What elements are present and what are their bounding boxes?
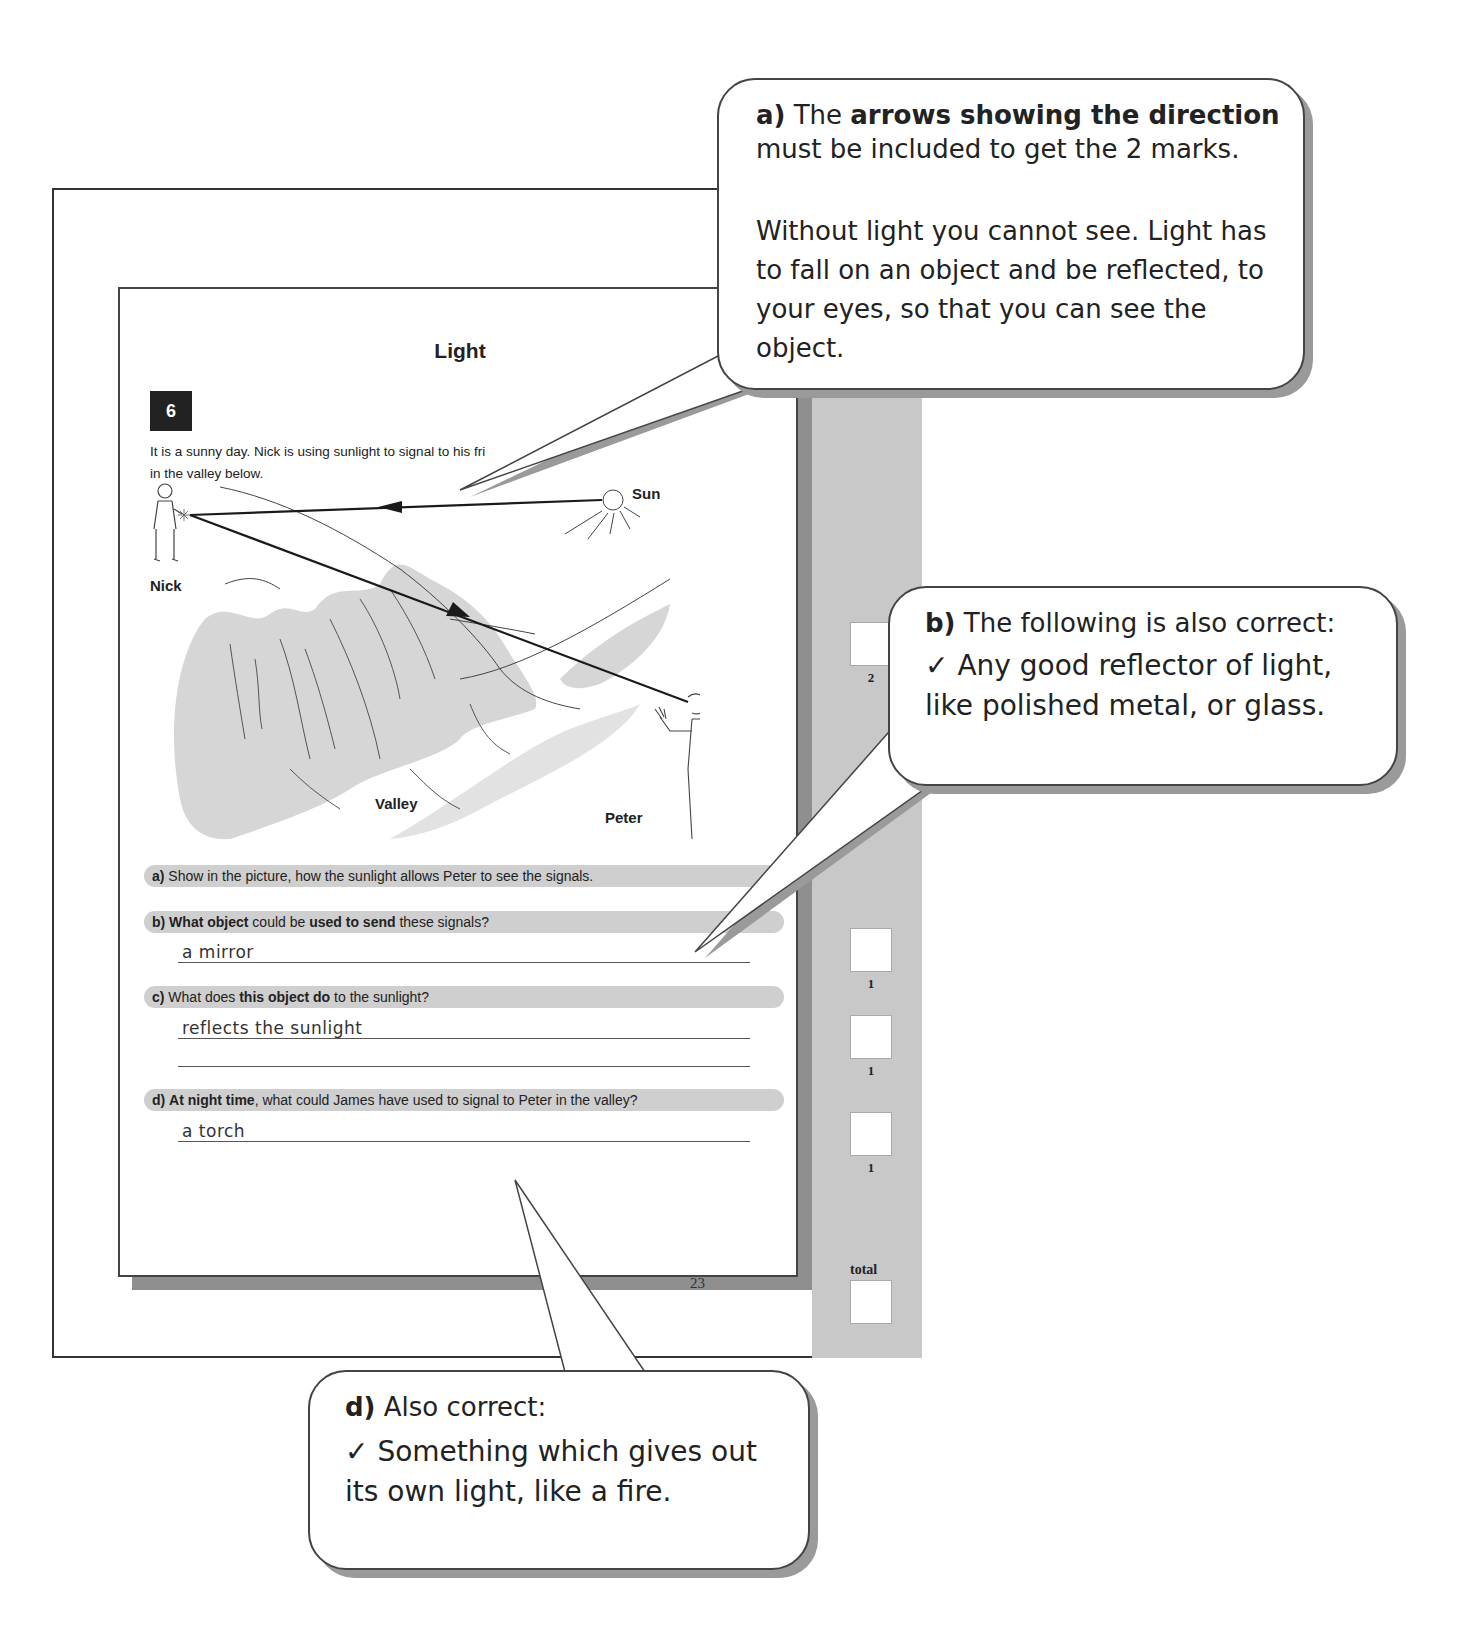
check-icon: ✓ (345, 1435, 368, 1468)
callout-a: a) The arrows showing the direction must… (717, 78, 1305, 390)
callout-d-heading: d) Also correct: (345, 1390, 805, 1424)
callout-b-body: ✓ Any good reflector of light, like poli… (925, 646, 1385, 726)
callout-a-paragraph-1: a) The arrows showing the direction must… (756, 98, 1286, 166)
check-icon: ✓ (925, 649, 948, 682)
callout-d: d) Also correct: ✓ Something which gives… (308, 1370, 810, 1570)
callout-d-body: ✓ Something which gives out its own ligh… (345, 1432, 785, 1512)
callout-b: b) The following is also correct: ✓ Any … (888, 586, 1398, 786)
callout-b-heading: b) The following is also correct: (925, 606, 1395, 640)
callout-a-paragraph-2: Without light you cannot see. Light has … (756, 212, 1286, 368)
